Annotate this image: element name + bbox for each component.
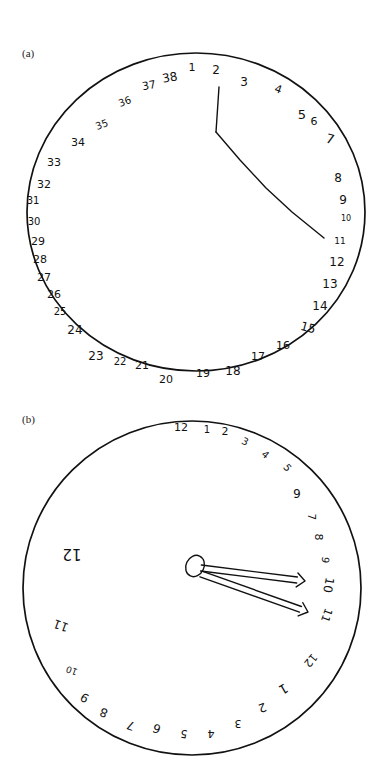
clock-number: 5 [298, 107, 306, 122]
clock-number: 18 [225, 364, 240, 378]
clock-number: 7 [306, 514, 317, 520]
clock-number: 6 [151, 721, 163, 737]
clock-b-hands [182, 552, 308, 616]
clock-number: 4 [259, 448, 271, 461]
clock-number: 10 [64, 664, 78, 677]
hand-diagonal [216, 132, 324, 238]
clock-number: 5 [179, 726, 188, 740]
clock-number: 4 [273, 82, 284, 97]
clock-number: 5 [281, 462, 294, 474]
clock-number: 33 [47, 156, 61, 169]
clock-number: 14 [312, 299, 327, 313]
clock-number: 2 [222, 425, 229, 438]
clock-number: 29 [31, 235, 45, 248]
clock-number: 24 [67, 323, 82, 337]
clock-number: 8 [312, 534, 325, 541]
clock-drawings-figure: 1234567891011121314151617181920212223242… [0, 0, 380, 778]
clock-number: 19 [196, 367, 210, 380]
clock-number: 16 [276, 339, 290, 352]
clock-number: 3 [240, 75, 248, 89]
clock-number: 7 [324, 131, 336, 148]
clock-number: 12 [62, 545, 81, 563]
clock-b-numbers: 12123456789101112123456789101112 [51, 421, 336, 741]
clock-a: 1234567891011121314151617181920212223242… [27, 53, 365, 386]
clock-number: 7 [125, 718, 137, 734]
clock-b: 12123456789101112123456789101112 [23, 421, 361, 755]
clock-number: 9 [320, 556, 332, 564]
clock-number: 10 [341, 214, 351, 223]
clock-number: 11 [334, 236, 345, 246]
clock-number: 8 [98, 705, 110, 721]
clock-number: 1 [204, 424, 210, 435]
clock-b-face [23, 421, 361, 755]
clock-number: 8 [334, 171, 342, 185]
clock-number: 20 [159, 373, 173, 386]
clock-number: 6 [311, 115, 318, 128]
clock-number: 38 [161, 69, 178, 85]
clock-number: 26 [47, 288, 61, 301]
clock-number: 28 [33, 253, 47, 266]
clock-number: 12 [301, 651, 320, 670]
clock-number: 9 [78, 689, 92, 705]
clock-a-hands [216, 87, 324, 238]
clock-number: 1 [189, 61, 196, 74]
clock-number: 2 [256, 700, 268, 716]
hand-vertical [216, 87, 219, 132]
clock-number: 27 [37, 271, 51, 284]
clock-number: 9 [339, 193, 347, 207]
clock-number: 11 [318, 606, 335, 624]
clock-number: 30 [28, 216, 41, 227]
clock-number: 10 [320, 576, 336, 593]
clock-number: 15 [299, 319, 317, 336]
clock-number: 37 [141, 78, 157, 93]
clock-number: 32 [37, 178, 51, 191]
clock-number: 31 [27, 195, 40, 206]
clock-number: 22 [114, 356, 127, 367]
clock-number: 23 [88, 349, 103, 363]
clock-number: 11 [51, 616, 70, 634]
clock-number: 4 [208, 727, 215, 740]
clock-a-numbers: 1234567891011121314151617181920212223242… [27, 61, 351, 386]
clock-number: 12 [329, 255, 344, 269]
clock-number: 3 [240, 435, 250, 448]
clock-number: 35 [94, 117, 110, 132]
clock-number: 1 [276, 680, 291, 697]
clock-number: 3 [235, 717, 242, 730]
clock-number: 25 [54, 306, 67, 317]
clock-number: 13 [322, 277, 337, 291]
clock-number: 12 [174, 421, 188, 434]
clock-number: 21 [135, 359, 149, 372]
clock-number: 17 [251, 350, 265, 363]
clock-number: 2 [212, 63, 220, 77]
clock-number: 34 [71, 136, 85, 149]
clock-number: 6 [293, 486, 301, 500]
clock-number: 36 [117, 94, 133, 109]
